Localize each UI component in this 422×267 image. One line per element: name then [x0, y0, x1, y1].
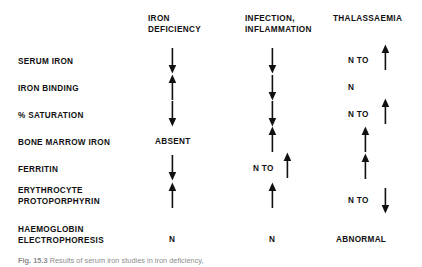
arrow-up-icon: [268, 126, 277, 152]
row-label-erythrocyte-protoporphyrin: ERYTHROCYTE PROTOPORPHYRIN: [18, 185, 100, 207]
arrow-up-icon: [381, 44, 390, 70]
arrow-up-icon: [168, 74, 177, 100]
arrow-down-icon: [168, 48, 177, 74]
arrow-down-icon: [268, 101, 277, 127]
cell-text-thalassaemia-haemoglobin-electrophoresis: ABNORMAL: [336, 235, 386, 244]
row-label-iron-binding: IRON BINDING: [18, 83, 79, 94]
arrow-down-icon: [168, 101, 177, 127]
figure-caption-text: Results of serum iron studies in iron de…: [50, 256, 204, 265]
column-header-infection-inflammation: INFECTION, INFLAMMATION: [245, 14, 312, 35]
cell-text-infection-ferritin: N TO: [253, 164, 274, 173]
arrow-up-icon: [283, 152, 292, 178]
arrow-up-icon: [361, 126, 370, 152]
cell-text-thalassaemia-percent-saturation: N TO: [348, 110, 369, 119]
column-header-thalassaemia: THALASSAEMIA: [333, 14, 402, 25]
arrow-down-icon: [268, 48, 277, 74]
arrow-up-icon: [268, 182, 277, 208]
arrow-up-icon: [168, 182, 177, 208]
row-label-bone-marrow-iron: BONE MARROW IRON: [18, 137, 110, 148]
cell-text-iron-deficiency-bone-marrow-iron: ABSENT: [155, 137, 190, 146]
figure-number: Fig. 15.3: [18, 256, 48, 265]
row-label-haemoglobin-electrophoresis: HAEMOGLOBIN ELECTROPHORESIS: [18, 224, 104, 246]
iron-studies-figure: IRON DEFICIENCY INFECTION, INFLAMMATION …: [0, 0, 422, 267]
row-label-serum-iron: SERUM IRON: [18, 56, 73, 67]
arrow-down-icon: [168, 155, 177, 181]
arrow-up-icon: [361, 153, 370, 179]
cell-text-thalassaemia-serum-iron: N TO: [348, 56, 369, 65]
row-label-ferritin: FERRITIN: [18, 164, 58, 175]
arrow-down-icon: [381, 188, 390, 214]
column-header-iron-deficiency: IRON DEFICIENCY: [148, 14, 201, 35]
row-label-percent-saturation: % SATURATION: [18, 110, 84, 121]
cell-text-thalassaemia-iron-binding: N: [348, 83, 354, 92]
arrow-up-icon: [381, 98, 390, 124]
cell-text-infection-haemoglobin-electrophoresis: N: [269, 235, 275, 244]
cell-text-thalassaemia-erythrocyte-protoporphyrin: N TO: [348, 196, 369, 205]
figure-caption: Fig. 15.3 Results of serum iron studies …: [18, 256, 418, 265]
cell-text-iron-deficiency-haemoglobin-electrophoresis: N: [169, 235, 175, 244]
arrow-down-icon: [268, 75, 277, 101]
